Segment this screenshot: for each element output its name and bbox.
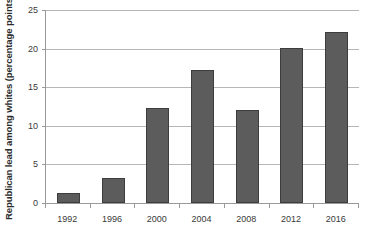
- x-tick-label: 2008: [236, 214, 256, 224]
- x-tick-mark: [358, 204, 359, 208]
- bar-2000: [146, 108, 169, 203]
- x-tick-label: 2016: [326, 214, 346, 224]
- y-axis-title: Republican lead among whites (percentage…: [0, 0, 16, 215]
- bar-2008: [236, 110, 259, 203]
- bar-2012: [280, 48, 303, 203]
- bar-1996: [102, 178, 125, 203]
- bar-1992: [57, 193, 80, 203]
- y-tick-label: 0: [33, 198, 38, 208]
- x-tick-label: 2004: [191, 214, 211, 224]
- plot-area: [45, 10, 359, 204]
- x-tick-mark: [269, 204, 270, 208]
- x-tick-label: 1992: [57, 214, 77, 224]
- bar-2004: [191, 70, 214, 203]
- x-tick-mark: [90, 204, 91, 208]
- y-tick-label: 10: [28, 121, 38, 131]
- y-axis-title-label: Republican lead among whites (percentage…: [3, 0, 14, 220]
- bar-2016: [325, 32, 348, 203]
- x-tick-mark: [134, 204, 135, 208]
- x-tick-mark: [45, 204, 46, 208]
- x-tick-label: 2000: [147, 214, 167, 224]
- x-tick-mark: [313, 204, 314, 208]
- x-tick-mark: [224, 204, 225, 208]
- x-tick-mark: [179, 204, 180, 208]
- bars-layer: [46, 10, 359, 203]
- y-axis-tick-labels: 0510152025: [16, 0, 42, 215]
- y-tick-label: 15: [28, 82, 38, 92]
- x-tick-label: 1996: [102, 214, 122, 224]
- bar-chart: Republican lead among whites (percentage…: [0, 0, 367, 248]
- y-tick-label: 5: [33, 159, 38, 169]
- x-tick-label: 2012: [281, 214, 301, 224]
- x-axis: 1992199620002004200820122016: [45, 204, 359, 244]
- y-tick-label: 20: [28, 44, 38, 54]
- y-tick-label: 25: [28, 5, 38, 15]
